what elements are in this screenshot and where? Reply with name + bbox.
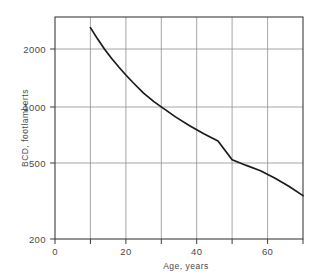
xtick-label-0: 0 [52,246,58,257]
ytick-label-200: 200 [29,234,46,245]
x-axis-title: Age, years [163,261,209,271]
y-axis-title: BCD, footlamberts [20,89,30,167]
chart-canvas: 2000 1000 500 200 0 20 40 60 Age, years … [0,0,320,276]
ytick-label-2000: 2000 [23,44,46,55]
chart-figure: 2000 1000 500 200 0 20 40 60 Age, years … [0,0,320,276]
xtick-label-40: 40 [191,246,202,257]
x-axis-ticks [55,239,303,244]
xtick-label-60: 60 [262,246,273,257]
plot-background [55,17,303,239]
xtick-label-20: 20 [120,246,131,257]
y-axis-ticks [50,49,55,239]
ytick-label-500: 500 [29,158,46,169]
